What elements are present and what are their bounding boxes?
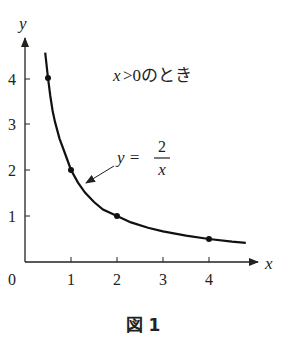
origin-label: 0 bbox=[8, 271, 16, 288]
svg-text:2: 2 bbox=[8, 162, 16, 179]
y-tick-labels: 1 2 3 4 bbox=[8, 71, 16, 225]
equation-label: y = 2 x bbox=[115, 138, 170, 179]
label-pointer-arrow bbox=[86, 166, 114, 183]
svg-text:3: 3 bbox=[159, 271, 167, 288]
svg-text:2: 2 bbox=[158, 138, 166, 155]
svg-text:2: 2 bbox=[113, 271, 121, 288]
svg-text:x: x bbox=[157, 160, 166, 179]
y-ticks bbox=[25, 79, 30, 216]
x-axis-label: x bbox=[264, 254, 273, 273]
figure-caption: 図 1 bbox=[126, 315, 161, 335]
svg-text:4: 4 bbox=[8, 71, 16, 88]
svg-text:1: 1 bbox=[67, 271, 75, 288]
point-half-4 bbox=[45, 75, 51, 81]
svg-text:x: x bbox=[112, 66, 121, 85]
point-2-1 bbox=[114, 213, 120, 219]
point-1-2 bbox=[68, 167, 74, 173]
svg-text:4: 4 bbox=[205, 271, 213, 288]
x-tick-labels: 1 2 3 4 bbox=[67, 271, 213, 288]
svg-text:>0のとき: >0のとき bbox=[123, 66, 192, 85]
condition-annotation: x >0のとき bbox=[112, 66, 192, 85]
point-4-half bbox=[206, 236, 212, 242]
y-axis-label: y bbox=[17, 14, 27, 33]
svg-text:y =: y = bbox=[115, 148, 140, 167]
svg-text:1: 1 bbox=[8, 208, 16, 225]
svg-text:3: 3 bbox=[8, 116, 16, 133]
x-ticks bbox=[71, 257, 209, 262]
inverse-proportion-graph: y x 0 1 2 3 4 1 2 3 4 x >0のとき bbox=[0, 0, 286, 348]
